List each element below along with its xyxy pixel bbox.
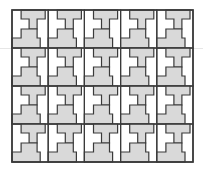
tile xyxy=(121,86,157,124)
tile-bottom-shape xyxy=(48,29,76,48)
tile xyxy=(157,124,193,162)
tile-bottom-shape xyxy=(157,105,185,124)
tile xyxy=(48,48,84,86)
tile-bottom-shape xyxy=(157,143,185,162)
tile-bottom-shape xyxy=(121,29,149,48)
tile xyxy=(157,48,193,86)
tile-top-shape xyxy=(94,10,118,29)
tile-top-shape xyxy=(21,10,45,29)
tile xyxy=(121,10,157,48)
tile-top-shape xyxy=(166,10,190,29)
tile-top-shape xyxy=(130,124,154,143)
tile xyxy=(12,48,48,86)
tile-bottom-shape xyxy=(48,143,76,162)
tile xyxy=(157,86,193,124)
tile xyxy=(157,10,193,48)
tile xyxy=(84,10,120,48)
tile-bottom-shape xyxy=(84,143,112,162)
tile xyxy=(121,48,157,86)
tile xyxy=(48,86,84,124)
tile-top-shape xyxy=(166,124,190,143)
tile-bottom-shape xyxy=(12,143,40,162)
tile xyxy=(48,124,84,162)
tile-top-shape xyxy=(130,10,154,29)
tile-bottom-shape xyxy=(121,105,149,124)
tile-top-shape xyxy=(94,124,118,143)
tile xyxy=(84,124,120,162)
tile-top-shape xyxy=(94,48,118,67)
tile xyxy=(84,86,120,124)
tile-top-shape xyxy=(166,86,190,105)
tile-bottom-shape xyxy=(48,105,76,124)
tile-bottom-shape xyxy=(157,67,185,86)
tile-bottom-shape xyxy=(84,67,112,86)
tile xyxy=(12,124,48,162)
tile-bottom-shape xyxy=(157,29,185,48)
tile-top-shape xyxy=(94,86,118,105)
tile-top-shape xyxy=(130,86,154,105)
tile-bottom-shape xyxy=(12,105,40,124)
tile-top-shape xyxy=(166,48,190,67)
tile-top-shape xyxy=(21,48,45,67)
tile-bottom-shape xyxy=(84,29,112,48)
tile-top-shape xyxy=(57,86,81,105)
tessellation-figure xyxy=(0,0,203,169)
tile xyxy=(12,10,48,48)
tile-bottom-shape xyxy=(12,29,40,48)
tile-bottom-shape xyxy=(84,105,112,124)
tile-top-shape xyxy=(57,48,81,67)
tile-top-shape xyxy=(21,124,45,143)
tile xyxy=(12,86,48,124)
tile-top-shape xyxy=(57,124,81,143)
tile-bottom-shape xyxy=(12,67,40,86)
tile-top-shape xyxy=(57,10,81,29)
tile-bottom-shape xyxy=(121,67,149,86)
tile xyxy=(84,48,120,86)
tile-bottom-shape xyxy=(121,143,149,162)
tile-bottom-shape xyxy=(48,67,76,86)
tile xyxy=(121,124,157,162)
tile xyxy=(48,10,84,48)
tile-top-shape xyxy=(130,48,154,67)
tile-top-shape xyxy=(21,86,45,105)
